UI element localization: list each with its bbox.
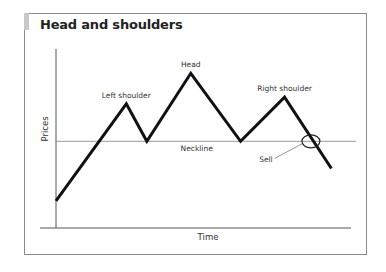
y-axis-label: Prices xyxy=(40,116,50,142)
annotation-right-shoulder: Right shoulder xyxy=(257,84,313,93)
annotation-left-shoulder: Left shoulder xyxy=(102,91,152,100)
head-and-shoulders-chart: Prices Time Left shoulderHeadRight shoul… xyxy=(0,0,386,272)
annotation-head: Head xyxy=(181,60,201,69)
x-axis-label: Time xyxy=(197,232,219,242)
annotation-neckline: Neckline xyxy=(181,144,214,153)
sell-pointer-line xyxy=(275,143,303,158)
annotation-sell: Sell xyxy=(259,155,273,164)
